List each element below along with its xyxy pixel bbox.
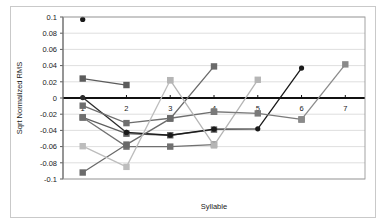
x-tick-label: 6: [299, 104, 303, 113]
data-point-circle: [168, 133, 173, 138]
data-point-square: [123, 164, 129, 170]
data-point-circle: [211, 127, 216, 132]
y-tick-label: 0.06: [42, 45, 57, 54]
data-point-circle: [255, 126, 260, 131]
data-point-square: [80, 114, 86, 120]
data-point-square: [211, 63, 217, 69]
data-point-square: [80, 75, 86, 81]
y-tick-label: 0.04: [42, 61, 57, 70]
x-tick-label: 3: [168, 104, 172, 113]
data-point-circle: [80, 95, 85, 100]
data-point-square: [298, 116, 304, 122]
data-point-circle: [299, 65, 304, 70]
data-point-square: [167, 77, 173, 83]
data-point-square: [80, 143, 86, 149]
data-point-square: [167, 115, 173, 121]
x-tick-label: 2: [124, 104, 128, 113]
y-tick-label: -0.1: [44, 175, 57, 184]
data-point-square: [123, 141, 129, 147]
y-tick-label: 0: [53, 94, 57, 103]
data-point-square: [123, 82, 129, 88]
chart-container: -0.1-0.08-0.06-0.04-0.0200.020.040.060.0…: [0, 0, 386, 224]
y-tick-label: 0.1: [47, 13, 57, 22]
y-axis-title: Sqrt Normalized RMS: [15, 62, 24, 135]
y-tick-label: -0.08: [40, 159, 57, 168]
data-point-square: [80, 169, 86, 175]
y-tick-label: -0.02: [40, 110, 57, 119]
data-point-square: [167, 143, 173, 149]
data-point-square: [80, 102, 86, 108]
x-tick-label: 7: [343, 104, 347, 113]
x-axis-title: Syllable: [201, 202, 227, 211]
data-point-circle: [80, 17, 85, 22]
data-point-square: [255, 77, 261, 83]
data-point-square: [211, 142, 217, 148]
chart-frame: -0.1-0.08-0.06-0.04-0.0200.020.040.060.0…: [10, 6, 376, 218]
y-tick-label: -0.06: [40, 142, 57, 151]
data-point-square: [255, 110, 261, 116]
y-tick-label: 0.08: [42, 29, 57, 38]
data-point-circle: [124, 130, 129, 135]
y-axis: -0.1-0.08-0.06-0.04-0.0200.020.040.060.0…: [40, 13, 63, 184]
line-chart: -0.1-0.08-0.06-0.04-0.0200.020.040.060.0…: [11, 7, 375, 217]
y-tick-label: 0.02: [42, 78, 57, 87]
data-point-square: [123, 120, 129, 126]
data-point-square: [211, 109, 217, 115]
data-point-square: [342, 61, 348, 67]
y-tick-label: -0.04: [40, 126, 57, 135]
series-series-1-syllables-1: [80, 17, 85, 22]
